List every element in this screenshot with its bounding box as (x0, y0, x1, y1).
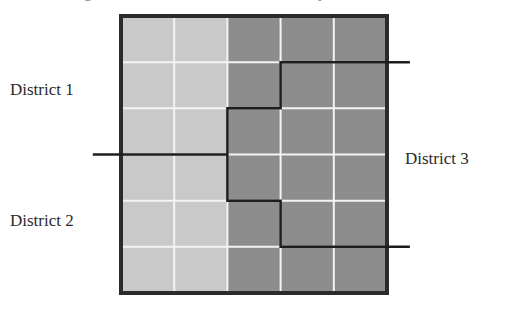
grid-cell-dark (227, 247, 280, 293)
district-2-label: District 2 (10, 211, 74, 230)
grid-cell-dark (334, 155, 387, 201)
grid-cell-light (174, 247, 227, 293)
grid-cell-light (121, 155, 174, 201)
grid-cell-light (121, 62, 174, 108)
grid-cell-light (121, 247, 174, 293)
grid-cell-light (121, 108, 174, 154)
grid-cell-dark (281, 201, 334, 247)
grid-cell-dark (227, 16, 280, 62)
grid-cell-dark (334, 247, 387, 293)
district-1-label: District 1 (10, 80, 74, 99)
grid-cell-dark (281, 62, 334, 108)
grid-cell-light (174, 108, 227, 154)
grid-cell-dark (281, 16, 334, 62)
grid-cell-dark (281, 108, 334, 154)
grid-cell-dark (334, 201, 387, 247)
grid-cell-dark (334, 62, 387, 108)
district-map-diagram: g y District 1 District 2 District 3 (0, 0, 513, 309)
grid-cell-light (174, 155, 227, 201)
grid-cell-dark (334, 16, 387, 62)
grid-cell-dark (227, 155, 280, 201)
grid-cell-light (174, 16, 227, 62)
grid-cell-dark (227, 62, 280, 108)
title-fragment-left: g (84, 0, 93, 1)
grid-cell-dark (281, 155, 334, 201)
grid-cell-dark (334, 108, 387, 154)
grid-cell-dark (281, 247, 334, 293)
title-fragment-right: y (318, 0, 327, 1)
grid-cell-light (174, 201, 227, 247)
grid-cell-light (121, 201, 174, 247)
grid-cell-dark (227, 108, 280, 154)
grid-cell-dark (227, 201, 280, 247)
district-3-label: District 3 (405, 149, 469, 168)
grid-cell-light (174, 62, 227, 108)
grid-cell-light (121, 16, 174, 62)
